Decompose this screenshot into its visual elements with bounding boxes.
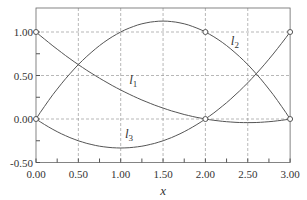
lagrange-basis-chart: 0.000.501.001.502.002.503.001.000.500.00… — [0, 0, 307, 200]
x-tick-label: 2.00 — [196, 168, 216, 180]
y-tick-label: 1.00 — [14, 26, 34, 38]
node-marker — [203, 30, 208, 35]
x-tick-label: 2.50 — [238, 168, 258, 180]
curve-label-l2: l2 — [231, 33, 239, 50]
node-marker — [203, 117, 208, 122]
node-marker — [34, 117, 39, 122]
y-tick-label: 0.00 — [14, 113, 34, 125]
x-tick-label: 0.00 — [26, 168, 46, 180]
x-tick-label: 0.50 — [69, 168, 89, 180]
node-marker — [288, 117, 293, 122]
curve-label-l3: l3 — [125, 126, 134, 143]
curve-label-l1: l1 — [129, 72, 137, 89]
x-axis-label: x — [159, 183, 166, 198]
y-tick-label: 0.50 — [14, 70, 34, 82]
node-marker — [34, 30, 39, 35]
x-tick-label: 1.00 — [111, 168, 131, 180]
x-tick-label: 1.50 — [153, 168, 173, 180]
node-marker — [288, 30, 293, 35]
y-tick-label: -0.50 — [10, 157, 33, 169]
x-tick-label: 3.00 — [280, 168, 300, 180]
